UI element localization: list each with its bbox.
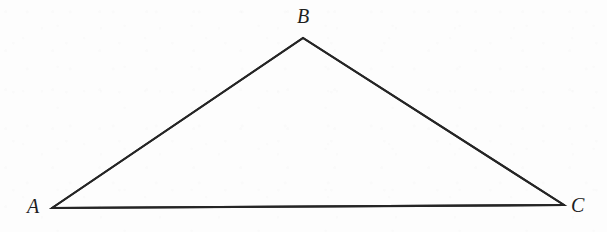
vertex-label-c: C bbox=[571, 195, 584, 215]
triangle-diagram bbox=[0, 0, 607, 232]
vertex-label-b: B bbox=[297, 6, 309, 26]
vertex-label-a: A bbox=[27, 196, 39, 216]
edge-bc bbox=[303, 38, 564, 205]
edge-ac bbox=[52, 205, 564, 208]
triangle-outline bbox=[52, 38, 564, 208]
geometry-figure-canvas: A B C bbox=[0, 0, 607, 232]
edge-ab bbox=[52, 38, 303, 208]
